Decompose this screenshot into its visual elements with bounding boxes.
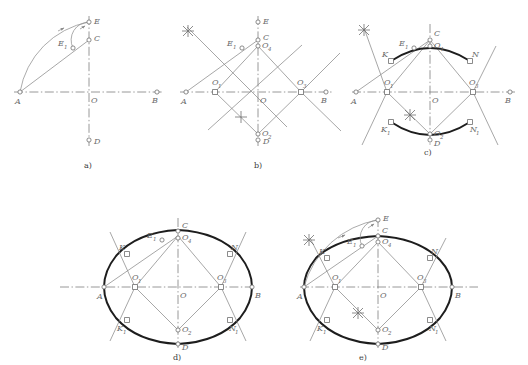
panel-d-point-N1 — [228, 318, 233, 323]
panel-e-point-E — [376, 218, 380, 222]
figure-root: A B C D E E 1 O a) — [0, 0, 528, 365]
panel-e-label-A: A — [296, 292, 303, 301]
svg-text:3: 3 — [475, 83, 479, 89]
panel-b-point-O3 — [299, 90, 304, 95]
panel-b-point-E — [256, 20, 260, 24]
panel-e-label-O: O — [380, 291, 387, 300]
panel-b-point-E1 — [240, 46, 244, 50]
svg-text:2: 2 — [267, 134, 272, 140]
panel-a-label-C: C — [94, 34, 100, 43]
panel-a-label-E1: E 1 — [57, 39, 68, 50]
panel-c-cross-upper — [358, 24, 370, 36]
panel-d-label-N1: N 1 — [228, 324, 239, 335]
panel-b-label-E1: E 1 — [226, 39, 237, 50]
panel-a-label-A: A — [14, 97, 21, 106]
panel-d-point-K — [125, 252, 130, 257]
panel-e: A B C D E E 1 O O 1 O 2 O 3 O 4 K K 1 N — [296, 214, 478, 362]
panel-b-point-A — [184, 90, 188, 94]
panel-d-label-K: K — [118, 243, 126, 252]
panel-c-label-N: N — [471, 50, 480, 59]
panel-a-arc-AE — [20, 22, 89, 92]
panel-a: A B C D E E 1 O a) — [14, 16, 163, 170]
panel-e-label-N1: N 1 — [428, 324, 439, 335]
svg-text:2: 2 — [439, 134, 444, 140]
svg-text:1: 1 — [235, 329, 239, 335]
panel-c-point-O3 — [471, 90, 476, 95]
panel-d-point-D — [176, 342, 180, 346]
svg-text:1: 1 — [435, 329, 439, 335]
panel-b-point-O2 — [256, 132, 260, 136]
panel-d-label-A: A — [96, 292, 103, 301]
panel-c-point-N1 — [468, 120, 473, 125]
panel-a-label-D: D — [93, 137, 101, 146]
panel-d-label-O3: O 3 — [217, 273, 227, 284]
svg-text:1: 1 — [233, 44, 237, 50]
panel-e-point-O3 — [419, 285, 424, 290]
panel-c-label-O3: O 3 — [469, 78, 479, 89]
panel-d-label-B: B — [254, 291, 261, 300]
panel-c-point-O4 — [428, 44, 432, 48]
panel-e-label-O3: O 3 — [417, 273, 427, 284]
panel-e-cross-lower — [352, 307, 364, 319]
panel-d-point-N — [228, 252, 233, 257]
panel-d-point-O3 — [219, 285, 224, 290]
svg-text:4: 4 — [387, 242, 392, 248]
panel-e-cross-upper — [303, 234, 315, 246]
panel-d: A B C D E 1 O O 1 O 2 O 3 O 4 K K 1 N — [60, 218, 261, 362]
panel-e-point-N1 — [428, 318, 433, 323]
panel-d-label-O: O — [180, 291, 187, 300]
panel-b-label-O4: O 4 — [262, 41, 272, 52]
panel-e-label-B: B — [454, 291, 461, 300]
svg-text:4: 4 — [439, 46, 444, 52]
panel-a-point-E1 — [71, 46, 75, 50]
panel-b-caption: b) — [254, 161, 262, 170]
panel-c-point-O1 — [385, 90, 390, 95]
panel-c-label-N1: N 1 — [469, 125, 480, 136]
panel-b-point-C — [256, 38, 260, 42]
panel-c-point-O2 — [428, 132, 432, 136]
panel-e-label-O2: O 2 — [382, 325, 392, 336]
panel-c: A B C D E 1 O O 1 O 2 O 3 O 4 K K 1 N — [350, 24, 515, 157]
panel-d-point-O4 — [176, 236, 180, 240]
svg-text:3: 3 — [303, 83, 307, 89]
panel-e-point-K1 — [325, 318, 330, 323]
panel-e-label-O4: O 4 — [382, 237, 392, 248]
panel-a-point-C — [87, 38, 91, 42]
panel-a-point-E — [87, 20, 91, 24]
panel-e-label-O1: O 1 — [332, 273, 342, 284]
panel-e-point-N — [428, 256, 433, 261]
panel-b: A B C D E E 1 O O 1 O 2 O 3 O 4 b) — [180, 16, 341, 170]
panel-c-label-E1: E 1 — [398, 39, 409, 50]
panel-d-label-N: N — [230, 243, 239, 252]
panel-a-point-A — [18, 90, 22, 94]
panel-b-point-O1 — [213, 90, 218, 95]
panel-c-label-K1: K 1 — [380, 125, 391, 136]
panel-c-point-C — [428, 38, 432, 42]
panel-e-arrow-2 — [368, 224, 374, 228]
panel-e-label-K: K — [318, 247, 326, 256]
svg-text:1: 1 — [218, 83, 222, 89]
panel-e-point-D — [376, 342, 380, 346]
panel-b-point-B — [324, 90, 328, 94]
panel-d-point-A — [102, 285, 106, 289]
panel-c-label-B: B — [504, 96, 511, 105]
panel-c-ray-N1-ext — [473, 92, 498, 145]
panel-c-point-D — [428, 138, 432, 142]
panel-b-point-O4 — [256, 44, 260, 48]
panel-b-bisector-2 — [208, 45, 302, 130]
panel-c-label-O: O — [432, 96, 439, 105]
panel-e-point-B — [450, 285, 454, 289]
svg-text:2: 2 — [187, 330, 192, 336]
panel-a-arrow-1 — [58, 28, 64, 31]
panel-e-point-O1 — [333, 285, 338, 290]
panel-e-point-E1 — [360, 244, 364, 248]
panel-d-point-O1 — [133, 285, 138, 290]
svg-text:E: E — [346, 237, 353, 246]
panel-e-label-C: C — [382, 226, 388, 235]
svg-text:1: 1 — [153, 236, 157, 242]
panel-b-label-O3: O 3 — [297, 78, 307, 89]
panel-a-label-B: B — [151, 96, 158, 105]
panel-c-point-E1 — [412, 46, 416, 50]
panel-c-point-K — [389, 59, 394, 64]
panel-d-point-B — [250, 285, 254, 289]
